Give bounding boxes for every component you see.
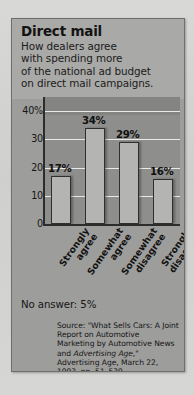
source-citation: Source: "What Sells Cars: A Joint Report… [57,321,179,372]
source-line-4-mid: and [57,349,74,358]
card-subtitle: How dealers agree with spending more of … [21,40,181,89]
bar [153,179,173,224]
subtitle-line-4: on direct mail campaigns. [21,77,181,89]
subtitle-line-2: with spending more [21,52,181,64]
page-title: Direct mail [21,23,102,39]
y-axis-line [43,97,45,225]
bar-value-label: 17% [48,163,71,174]
bar [51,176,71,224]
source-line-4-end: " [135,349,138,358]
source-line-4-italic: Advertising Age, [74,349,136,358]
bar-value-label: 29% [116,129,139,140]
bar-chart: 40%3020100 17%34%29%16% StronglyagreeSom… [12,97,184,292]
x-axis-category-labels: StronglyagreeSomewhatagreeSomewhatdisagr… [44,226,184,292]
source-line-1: Source: "What Sells Cars: A [57,321,160,330]
no-answer-note: No answer: 5% [21,299,96,310]
infographic-card: Direct mail How dealers agree with spend… [11,18,185,372]
bar-value-label: 16% [150,166,173,177]
source-line-6: 1993, pp. 51–539. [57,367,125,372]
gridline [44,139,180,140]
y-axis-tick-label: 30 [13,133,43,144]
y-axis-ticks: 40%3020100 [12,97,43,227]
plot-area: 17%34%29%16% [44,97,180,224]
source-line-4-plain: News [154,339,174,348]
y-axis-tick-label: 0 [13,218,43,229]
y-axis-tick-label: 10 [13,190,43,201]
bar [119,142,139,224]
bar [85,128,105,224]
bar-value-label: 34% [82,115,105,126]
plot-top-band [44,97,180,115]
y-axis-tick-label: 40% [13,105,43,116]
subtitle-line-3: of the national ad budget [21,65,181,77]
source-line-3: Marketing by Automotive [57,339,152,348]
source-line-5: Advertising Age, March 22, [57,358,158,367]
subtitle-line-1: How dealers agree [21,40,181,52]
gridline [44,111,180,112]
y-axis-tick-label: 20 [13,162,43,173]
